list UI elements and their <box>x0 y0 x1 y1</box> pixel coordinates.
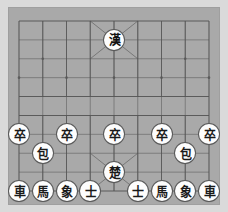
piece-glyph: 卒 <box>156 128 168 141</box>
piece-glyph: 卒 <box>203 128 215 141</box>
piece-glyph: 卒 <box>108 128 120 141</box>
piece-glyph: 卒 <box>13 128 25 141</box>
xiangqi-screenshot: 漢卒卒卒卒卒包包楚車馬象士士馬象車 <box>0 0 228 212</box>
piece-glyph: 士 <box>132 185 144 198</box>
piece-glyph: 車 <box>13 185 25 198</box>
piece-glyph: 馬 <box>37 185 49 198</box>
piece-glyph: 楚 <box>108 166 120 179</box>
piece-glyph: 士 <box>84 185 96 198</box>
piece-glyph: 包 <box>179 147 191 160</box>
red-pawn-2[interactable]: 卒 <box>57 124 77 144</box>
piece-glyph: 包 <box>37 147 49 160</box>
red-horse-right[interactable]: 馬 <box>152 181 172 201</box>
piece-glyph: 漢 <box>108 33 120 46</box>
piece-glyph: 卒 <box>61 128 73 141</box>
red-pawn-4[interactable]: 卒 <box>152 124 172 144</box>
red-chariot-left[interactable]: 車 <box>9 181 29 201</box>
piece-glyph: 象 <box>61 185 73 198</box>
red-chariot-right[interactable]: 車 <box>199 181 219 201</box>
piece-glyph: 象 <box>179 185 191 198</box>
piece-glyph: 車 <box>203 185 215 198</box>
red-advisor-right[interactable]: 士 <box>128 181 148 201</box>
red-elephant-left[interactable]: 象 <box>57 181 77 201</box>
xiangqi-board[interactable]: 漢卒卒卒卒卒包包楚車馬象士士馬象車 <box>8 7 220 205</box>
red-cannon-left[interactable]: 包 <box>33 143 53 163</box>
piece-glyph: 馬 <box>156 185 168 198</box>
black-general[interactable]: 漢 <box>104 30 124 50</box>
red-general[interactable]: 楚 <box>104 162 124 182</box>
red-horse-left[interactable]: 馬 <box>33 181 53 201</box>
